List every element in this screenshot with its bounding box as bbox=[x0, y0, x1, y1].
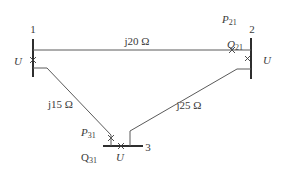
bus-3-q-label: Q31 bbox=[81, 151, 97, 165]
line-1-3: j15 Ω bbox=[33, 68, 111, 146]
bus-3-voltage-label: U bbox=[116, 151, 125, 163]
bus-3: 3 U P31 Q31 bbox=[80, 126, 151, 165]
bus-2-number: 2 bbox=[249, 23, 255, 35]
bus-3-p-label: P31 bbox=[80, 126, 96, 140]
bus-2-voltage-label: U bbox=[263, 54, 272, 66]
bus-1-number: 1 bbox=[30, 23, 36, 35]
bus-2-measure-x-icon bbox=[245, 56, 250, 61]
bus-1: 1 U bbox=[14, 23, 36, 77]
bus-1-voltage-label: U bbox=[14, 55, 23, 67]
bus-3-number: 3 bbox=[145, 141, 151, 153]
line-2-3: j25 Ω bbox=[130, 69, 251, 146]
line-1-3-impedance: j15 Ω bbox=[47, 98, 73, 110]
line-1-2-impedance: j20 Ω bbox=[124, 35, 150, 47]
line-1-2: j20 Ω bbox=[33, 35, 251, 50]
line-2-3-impedance: j25 Ω bbox=[176, 99, 202, 111]
power-network-diagram: 1 U 2 U P21 Q21 3 U bbox=[0, 0, 282, 174]
bus-2-p-label: P21 bbox=[221, 13, 237, 27]
